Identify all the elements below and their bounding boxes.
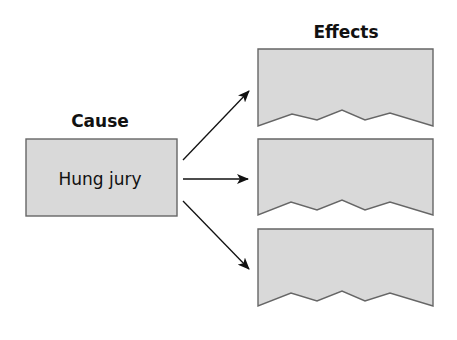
effect-box-1 [258,49,433,126]
effect-box-3 [258,229,433,306]
effect-box-2 [258,139,433,215]
arrow-to-effect-3 [183,201,249,269]
arrow-to-effect-1 [183,91,249,160]
cause-heading: Cause [71,111,129,131]
cause-box: Hung jury [26,139,177,216]
effects-heading: Effects [313,22,378,42]
cause-effect-diagram: Effects Cause Hung jury [0,0,457,340]
cause-label: Hung jury [58,169,141,189]
